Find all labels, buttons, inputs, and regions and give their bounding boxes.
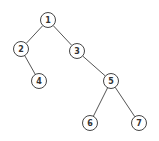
node-label: 5	[108, 77, 114, 86]
edge-1-3	[53, 25, 72, 45]
node-label: 3	[74, 47, 80, 56]
node-label: 4	[36, 77, 42, 86]
node-label: 7	[136, 119, 142, 128]
node-label: 6	[87, 119, 93, 128]
binary-tree-diagram: 1234567	[0, 0, 159, 141]
edge-5-7	[115, 87, 135, 117]
edge-3-5	[83, 56, 106, 76]
tree-node-1: 1	[41, 13, 56, 28]
tree-node-6: 6	[83, 116, 98, 131]
tree-node-3: 3	[70, 44, 85, 59]
edge-2-4	[25, 56, 36, 75]
tree-node-4: 4	[32, 74, 47, 89]
edge-5-6	[93, 88, 107, 117]
node-label: 2	[18, 45, 24, 54]
edges	[25, 25, 135, 116]
node-label: 1	[45, 16, 51, 25]
tree-node-7: 7	[132, 116, 147, 131]
tree-node-2: 2	[14, 42, 29, 57]
edge-1-2	[26, 25, 43, 43]
tree-node-5: 5	[104, 74, 119, 89]
